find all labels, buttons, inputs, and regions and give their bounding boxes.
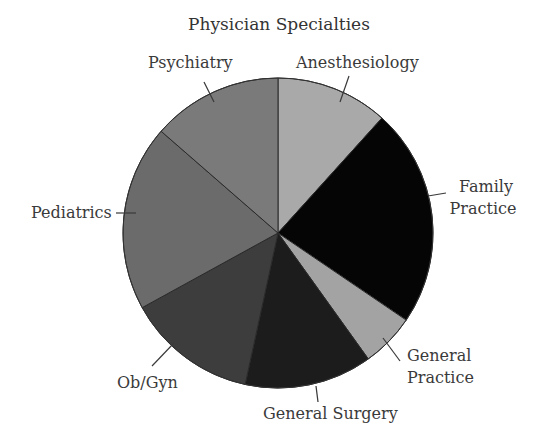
label-pediatrics: Pediatrics <box>31 203 112 222</box>
label-general-practice-line1: General <box>407 346 471 365</box>
label-psychiatry: Psychiatry <box>148 53 233 72</box>
label-obgyn: Ob/Gyn <box>117 373 178 392</box>
label-family-practice-line2: Practice <box>450 199 517 218</box>
leader-general-practice <box>383 338 400 361</box>
leader-general-surgery <box>316 386 318 402</box>
label-general-practice-line2: Practice <box>407 368 474 387</box>
label-general-surgery: General Surgery <box>263 404 398 423</box>
leader-family-practice <box>428 193 446 196</box>
chart-title: Physician Specialties <box>188 14 370 34</box>
label-family-practice-line1: Family <box>459 177 513 196</box>
pie-slices <box>123 78 433 388</box>
pie-chart: Physician Specialties Anesthesiology Fam… <box>0 0 543 446</box>
label-anesthesiology: Anesthesiology <box>295 53 419 72</box>
leader-obgyn <box>152 343 174 366</box>
